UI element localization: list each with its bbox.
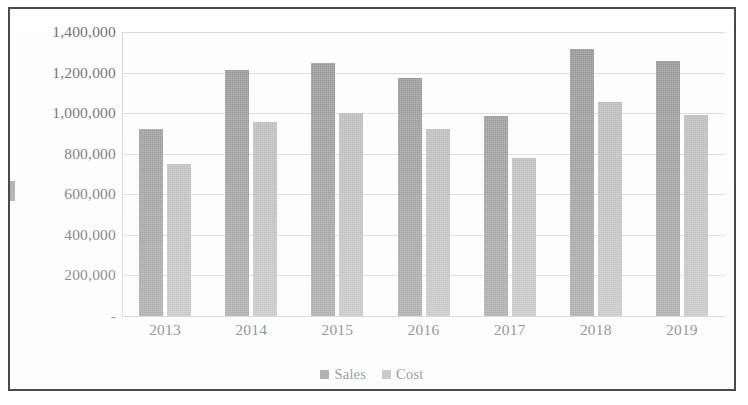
y-axis-tick-label: 800,000 xyxy=(24,145,116,163)
bar-group xyxy=(311,32,363,316)
bar-cost-2019[interactable] xyxy=(684,115,708,316)
gridline xyxy=(122,316,725,317)
y-axis: 1,400,0001,200,0001,000,000800,000600,00… xyxy=(18,32,116,316)
x-axis-tick-label: 2015 xyxy=(321,321,353,339)
bar-cost-2015[interactable] xyxy=(339,113,363,316)
chart-frame: 1,400,0001,200,0001,000,000800,000600,00… xyxy=(8,7,736,391)
plot-area xyxy=(122,32,725,316)
bar-sales-2013[interactable] xyxy=(139,129,163,316)
x-axis-tick-label: 2014 xyxy=(235,321,267,339)
bar-cost-2014[interactable] xyxy=(253,122,277,316)
y-axis-tick-label: 200,000 xyxy=(24,266,116,284)
x-axis-tick-label: 2018 xyxy=(580,321,612,339)
bar-group xyxy=(398,32,450,316)
legend-item-cost[interactable]: Cost xyxy=(382,366,423,383)
sales-swatch-icon xyxy=(320,370,329,379)
scan-artifact xyxy=(10,181,15,201)
chart-legend: SalesCost xyxy=(10,366,734,383)
y-axis-tick-label: 600,000 xyxy=(24,185,116,203)
bar-sales-2015[interactable] xyxy=(311,63,335,316)
legend-item-sales[interactable]: Sales xyxy=(320,366,366,383)
bar-sales-2018[interactable] xyxy=(570,49,594,316)
bar-sales-2016[interactable] xyxy=(398,78,422,316)
x-axis-tick-label: 2013 xyxy=(149,321,181,339)
bar-cost-2013[interactable] xyxy=(167,164,191,316)
y-axis-tick-label: 1,400,000 xyxy=(24,23,116,41)
legend-label: Sales xyxy=(334,366,366,383)
legend-label: Cost xyxy=(396,366,423,383)
bar-group xyxy=(484,32,536,316)
y-axis-tick-label: 1,000,000 xyxy=(24,104,116,122)
x-axis-tick-label: 2019 xyxy=(666,321,698,339)
bar-group xyxy=(656,32,708,316)
x-axis-tick-label: 2016 xyxy=(408,321,440,339)
y-axis-tick-label: - xyxy=(24,307,116,325)
cost-swatch-icon xyxy=(382,370,391,379)
y-axis-tick-label: 400,000 xyxy=(24,226,116,244)
bar-cost-2016[interactable] xyxy=(426,129,450,316)
bar-cost-2017[interactable] xyxy=(512,158,536,316)
x-axis-tick-label: 2017 xyxy=(494,321,526,339)
bar-group xyxy=(570,32,622,316)
bar-sales-2019[interactable] xyxy=(656,61,680,316)
bar-group xyxy=(139,32,191,316)
bar-sales-2014[interactable] xyxy=(225,70,249,316)
x-axis: 2013201420152016201720182019 xyxy=(122,321,725,351)
bar-cost-2018[interactable] xyxy=(598,102,622,316)
bar-sales-2017[interactable] xyxy=(484,116,508,316)
bar-group xyxy=(225,32,277,316)
y-axis-tick-label: 1,200,000 xyxy=(24,64,116,82)
